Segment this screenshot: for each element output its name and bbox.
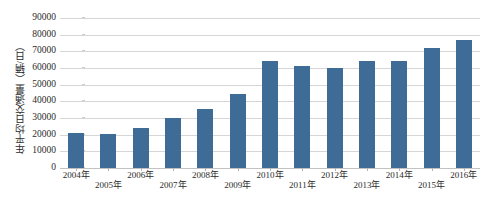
x-axis-tick-label: 2005年: [95, 181, 122, 190]
x-axis-tick-label: 2016年: [450, 171, 477, 180]
bar-chart: 年平均日交通量（辆/日） 010000200003000040000500006…: [0, 0, 491, 210]
plot-area: [60, 18, 480, 168]
x-axis-tick-label: 2011年: [289, 181, 316, 190]
x-axis-tick-label: 2004年: [63, 171, 90, 180]
x-axis-tick-mark: [367, 168, 368, 171]
y-axis-tick-label: 30000: [32, 113, 56, 123]
x-axis-tick-label: 2012年: [321, 171, 348, 180]
bar: [359, 61, 375, 169]
y-axis-tick-labels: 0100002000030000400005000060000700008000…: [26, 18, 60, 168]
y-axis-tick-label: 40000: [32, 97, 56, 107]
x-axis-tick-label: 2013年: [353, 181, 380, 190]
bar: [456, 40, 472, 168]
y-axis-tick-label: 70000: [32, 47, 56, 57]
bar: [424, 48, 440, 168]
bar: [262, 61, 278, 168]
x-axis-tick-mark: [108, 168, 109, 171]
bar: [230, 94, 246, 168]
x-axis-tick-mark: [173, 168, 174, 171]
x-axis-tick-label: 2010年: [257, 171, 284, 180]
y-axis-tick-label: 20000: [32, 130, 56, 140]
bar: [391, 61, 407, 168]
x-axis-tick-label: 2009年: [224, 181, 251, 190]
x-axis-tick-label: 2008年: [192, 171, 219, 180]
bar: [327, 68, 343, 168]
y-axis-tick-label: 90000: [32, 13, 56, 23]
x-axis-tick-mark: [302, 168, 303, 171]
y-axis-tick-label: 60000: [32, 63, 56, 73]
x-axis-tick-label: 2006年: [127, 171, 154, 180]
y-axis-tick-label: 80000: [32, 30, 56, 40]
bars-layer: [60, 18, 480, 168]
x-axis-tick-label: 2014年: [386, 171, 413, 180]
bar: [133, 128, 149, 169]
x-axis-tick-label: 2015年: [418, 181, 445, 190]
x-axis-tick-label: 2007年: [160, 181, 187, 190]
bar: [197, 109, 213, 169]
bar: [68, 133, 84, 168]
y-axis-tick-label: 50000: [32, 80, 56, 90]
y-axis-tick-label: 0: [51, 163, 56, 173]
x-axis-tick-labels: 2004年2005年2006年2007年2008年2009年2010年2011年…: [60, 168, 480, 210]
bar: [165, 118, 181, 168]
x-axis-tick-mark: [238, 168, 239, 171]
bar: [294, 66, 310, 168]
y-axis-tick-label: 10000: [32, 147, 56, 157]
bar: [100, 134, 116, 169]
x-axis-tick-mark: [432, 168, 433, 171]
